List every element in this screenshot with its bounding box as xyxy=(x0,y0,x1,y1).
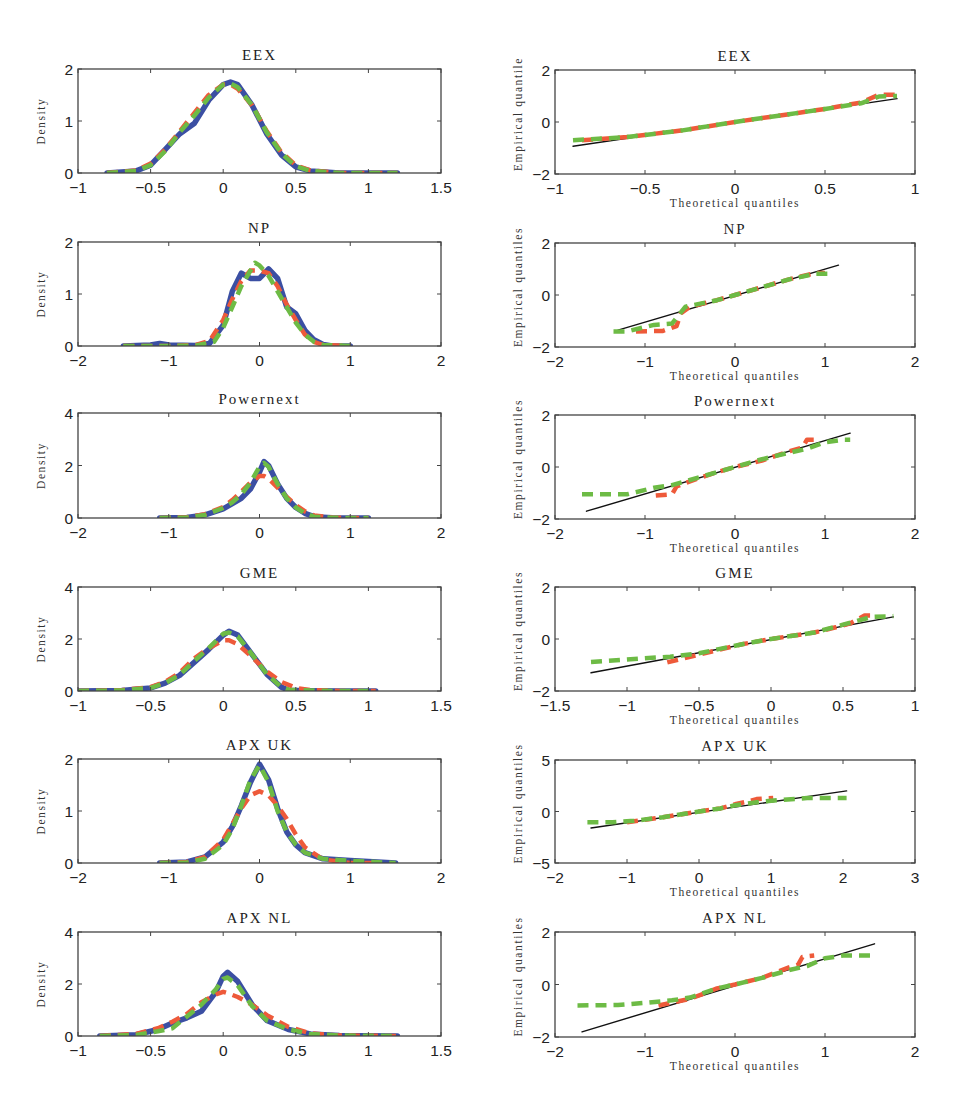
x-tick-label: 0 xyxy=(731,525,740,542)
x-tick-label: 1 xyxy=(821,525,830,542)
y-tick-label: 2 xyxy=(64,631,73,648)
x-tick-label: 1 xyxy=(911,180,920,197)
fit-1-line xyxy=(107,85,397,173)
eex-qq-panel: −1−0.500.51−202EEXTheoretical quantilesE… xyxy=(512,48,919,210)
x-tick-label: −0.5 xyxy=(135,1042,166,1059)
panel-title: GME xyxy=(715,565,754,581)
x-tick-label: 1 xyxy=(346,352,355,369)
x-tick-label: 1.5 xyxy=(430,1042,452,1059)
y-tick-label: 5 xyxy=(541,752,550,769)
eex-density-panel: −1−0.500.511.5012EEXDensity xyxy=(35,47,452,196)
x-tick-label: 0 xyxy=(255,869,264,886)
y-axis-label: Empirical quantiles xyxy=(512,916,525,1036)
kernel-density-line xyxy=(160,462,369,518)
gme-qq-panel: −1.5−1−0.500.51−202GMETheoretical quanti… xyxy=(512,565,919,727)
y-tick-label: 0 xyxy=(64,338,73,355)
x-tick-label: −1 xyxy=(618,697,636,714)
y-tick-label: −2 xyxy=(532,683,550,700)
x-tick-label: 0 xyxy=(731,1043,740,1060)
np-qq-panel: −2−1012−202NPTheoretical quantilesEmpiri… xyxy=(512,221,919,383)
y-tick-label: 1 xyxy=(64,803,73,820)
y-axis-label: Density xyxy=(35,788,48,835)
plot-area xyxy=(78,631,376,691)
x-axis-label: Theoretical quantiles xyxy=(670,370,800,383)
axes-box xyxy=(78,932,441,1036)
x-tick-label: −0.5 xyxy=(135,697,166,714)
fit-2-quantiles-line xyxy=(582,440,850,495)
fit-2-quantiles-line xyxy=(614,274,835,332)
y-tick-label: −5 xyxy=(532,855,550,872)
apxuk-density-panel: −2−1012012APX UKDensity xyxy=(35,737,445,886)
fit-1-quantiles-line xyxy=(659,956,815,1006)
x-tick-label: −1 xyxy=(636,353,654,370)
y-tick-label: 4 xyxy=(64,579,73,596)
x-axis-label: Theoretical quantiles xyxy=(670,886,800,899)
panel-title: NP xyxy=(723,221,746,237)
gme-density-panel: −1−0.500.511.5024GMEDensity xyxy=(35,565,452,714)
panel-title: APX UK xyxy=(701,738,768,754)
y-axis-label: Empirical quantile xyxy=(512,57,525,171)
y-tick-label: −2 xyxy=(532,166,550,183)
apxnl-density-panel: −1−0.500.511.5024APX NLDensity xyxy=(35,910,452,1059)
y-tick-label: 0 xyxy=(541,977,550,994)
y-tick-label: 0 xyxy=(64,510,73,527)
y-tick-label: 2 xyxy=(541,407,550,424)
x-tick-label: 1 xyxy=(821,353,830,370)
plot-area xyxy=(578,944,875,1032)
y-tick-label: 1 xyxy=(64,113,73,130)
y-tick-label: 0 xyxy=(541,114,550,131)
x-tick-label: 2 xyxy=(437,352,446,369)
x-tick-label: 1 xyxy=(767,869,776,886)
y-tick-label: 0 xyxy=(541,804,550,821)
powernext-qq-panel: −2−1012−202PowernextTheoretical quantile… xyxy=(512,393,919,555)
y-tick-label: 1 xyxy=(64,286,73,303)
panel-title: GME xyxy=(240,565,279,581)
y-tick-label: 4 xyxy=(64,405,73,422)
x-tick-label: 1.5 xyxy=(430,179,452,196)
x-tick-label: 1 xyxy=(346,524,355,541)
fit-1-line xyxy=(78,640,376,691)
fit-2-quantiles-line xyxy=(591,616,893,662)
y-axis-label: Empirical quantiles xyxy=(512,743,525,863)
axes-box xyxy=(555,587,915,691)
x-tick-label: 1 xyxy=(364,179,373,196)
x-tick-label: 2 xyxy=(911,1043,920,1060)
y-tick-label: 2 xyxy=(64,234,73,251)
x-tick-label: 0 xyxy=(731,180,740,197)
x-tick-label: 0 xyxy=(219,1042,228,1059)
fit-2-line xyxy=(123,263,350,346)
reference-line-line xyxy=(587,433,851,511)
x-tick-label: −0.5 xyxy=(684,697,715,714)
x-tick-label: 1 xyxy=(364,697,373,714)
fit-2-quantiles-line xyxy=(587,798,846,822)
x-tick-label: −0.5 xyxy=(135,179,166,196)
fit-1-line xyxy=(160,791,378,863)
panel-title: APX UK xyxy=(226,737,293,753)
kernel-density-line xyxy=(123,269,350,346)
y-tick-label: −2 xyxy=(532,339,550,356)
y-tick-label: 0 xyxy=(541,287,550,304)
plot-area xyxy=(614,265,839,331)
y-axis-label: Empirical quantiles xyxy=(512,227,525,347)
panel-title: Powernext xyxy=(218,391,300,407)
panel-title: APX NL xyxy=(702,910,768,926)
y-tick-label: 0 xyxy=(64,165,73,182)
x-tick-label: 0 xyxy=(219,179,228,196)
y-tick-label: 2 xyxy=(64,976,73,993)
y-tick-label: 0 xyxy=(541,459,550,476)
x-tick-label: 1 xyxy=(346,869,355,886)
x-tick-label: 2 xyxy=(911,525,920,542)
x-tick-label: 2 xyxy=(911,353,920,370)
y-tick-label: 0 xyxy=(64,683,73,700)
x-tick-label: 0.5 xyxy=(285,179,307,196)
y-axis-label: Density xyxy=(35,98,48,145)
y-axis-label: Empirical quantiles xyxy=(512,571,525,691)
x-tick-label: 0 xyxy=(767,697,776,714)
x-tick-label: −1 xyxy=(618,869,636,886)
panel-title: APX NL xyxy=(227,910,293,926)
x-tick-label: 0.5 xyxy=(832,697,854,714)
x-axis-label: Theoretical quantiles xyxy=(670,197,800,210)
y-tick-label: 0 xyxy=(541,631,550,648)
plot-area xyxy=(100,972,398,1036)
x-axis-label: Theoretical quantiles xyxy=(670,714,800,727)
